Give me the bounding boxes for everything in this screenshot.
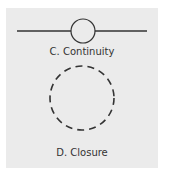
continuity-figure: [17, 19, 147, 43]
continuity-label: C. Continuity: [6, 46, 158, 57]
closure-figure: [50, 66, 114, 130]
closure-label: D. Closure: [6, 147, 158, 158]
